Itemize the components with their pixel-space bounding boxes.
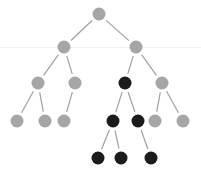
tree-edge (128, 92, 135, 112)
tree-nodes (11, 8, 190, 165)
tree-node-highlighted (132, 115, 145, 128)
tree-edge (44, 55, 59, 76)
tree-edge (106, 20, 129, 40)
tree-edge (142, 55, 157, 76)
tree-edge (67, 56, 72, 74)
tree-edge (71, 21, 92, 41)
tree-node (58, 41, 71, 54)
tree-node (130, 41, 143, 54)
tree-node (93, 8, 106, 21)
tree-edge (40, 92, 44, 111)
tree-node-highlighted (145, 152, 158, 165)
tree-node (177, 115, 190, 128)
tree-node (39, 115, 52, 128)
tree-node (149, 115, 162, 128)
tree-node (11, 115, 24, 128)
tree-node (32, 77, 45, 90)
tree-edge (115, 130, 119, 148)
tree-edges (22, 20, 179, 149)
tree-edge (128, 56, 133, 74)
tree-edge (167, 91, 179, 112)
tree-edge (22, 91, 34, 112)
tree-node (58, 115, 71, 128)
tree-edge (102, 130, 110, 149)
tree-node-highlighted (107, 115, 120, 128)
tree-node (156, 77, 169, 90)
tree-edge (157, 92, 161, 111)
tree-edge (141, 130, 148, 149)
tree-diagram (0, 0, 201, 174)
tree-edge (116, 92, 122, 112)
tree-node-highlighted (115, 152, 128, 165)
tree-node-highlighted (119, 77, 132, 90)
tree-node-highlighted (92, 152, 105, 165)
tree-edge (67, 92, 73, 112)
tree-node (69, 77, 82, 90)
